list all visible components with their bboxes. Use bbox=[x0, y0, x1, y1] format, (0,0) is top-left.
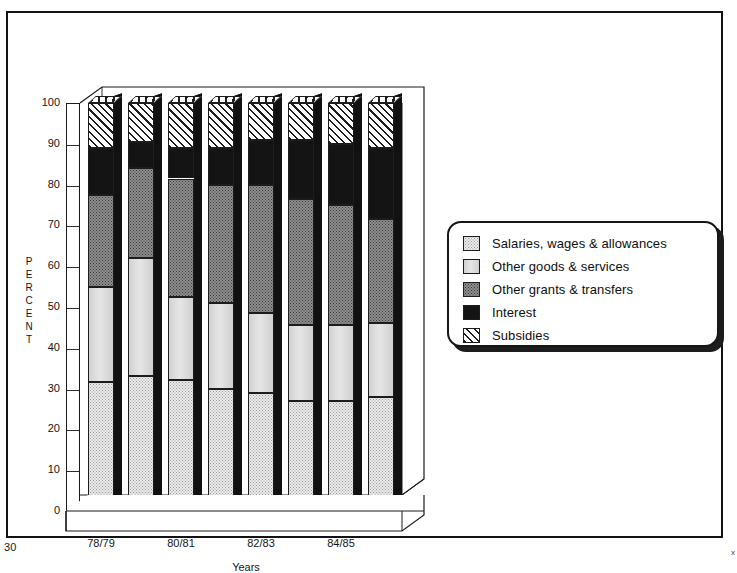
bar-side-face bbox=[274, 93, 282, 511]
y-tick-label: 100 bbox=[34, 96, 60, 108]
legend-item[interactable]: Other grants & transfers bbox=[463, 278, 717, 300]
y-axis-3d-wall bbox=[66, 103, 80, 511]
bar-segment bbox=[128, 103, 154, 142]
bar-segment bbox=[328, 325, 354, 400]
bar-79-80[interactable] bbox=[128, 103, 154, 511]
legend-item[interactable]: Subsidies bbox=[463, 324, 717, 346]
bar-segment bbox=[248, 313, 274, 393]
bar-segment bbox=[88, 103, 114, 148]
bar-83-84[interactable] bbox=[288, 103, 314, 511]
axis-gridline bbox=[67, 390, 79, 391]
x-axis-title: Years bbox=[186, 561, 306, 573]
y-tick-label: 40 bbox=[34, 341, 60, 353]
legend-label: Other goods & services bbox=[492, 259, 629, 274]
page-number: 30 bbox=[4, 541, 17, 553]
y-tick-label: 60 bbox=[34, 259, 60, 271]
y-tick-label: 20 bbox=[34, 422, 60, 434]
bar-segment bbox=[128, 142, 154, 169]
bar-segment bbox=[168, 148, 194, 179]
chart-floor bbox=[66, 511, 426, 512]
axis-gridline bbox=[67, 430, 79, 431]
legend-item[interactable]: Other goods & services bbox=[463, 255, 717, 277]
y-tick-label: 80 bbox=[34, 178, 60, 190]
x-tick-label: 84/85 bbox=[318, 537, 364, 549]
bar-82-83[interactable] bbox=[248, 103, 274, 511]
bar-segment bbox=[328, 103, 354, 144]
plot-area: 78/7980/8182/8384/85 Years bbox=[66, 87, 426, 517]
legend-label: Interest bbox=[492, 305, 536, 320]
legend-swatch bbox=[463, 259, 480, 274]
bar-side-face bbox=[234, 93, 242, 511]
bar-81-82[interactable] bbox=[208, 103, 234, 511]
bar-segment bbox=[248, 140, 274, 185]
bar-segment bbox=[328, 401, 354, 511]
y-tick-label: 90 bbox=[34, 137, 60, 149]
bar-side-face bbox=[194, 93, 202, 511]
axis-gridline bbox=[67, 145, 79, 146]
y-tick-label: 0 bbox=[34, 504, 60, 516]
bar-segment bbox=[328, 205, 354, 325]
bar-segment bbox=[368, 219, 394, 323]
y-tick-label: 30 bbox=[34, 382, 60, 394]
bar-84-85[interactable] bbox=[328, 103, 354, 511]
bar-segment bbox=[168, 380, 194, 511]
bar-segment bbox=[128, 168, 154, 258]
bar-segment bbox=[248, 185, 274, 314]
bar-segment bbox=[288, 199, 314, 325]
bar-segment bbox=[168, 297, 194, 381]
bar-segment bbox=[368, 323, 394, 396]
axis-gridline bbox=[67, 308, 79, 309]
legend-swatch bbox=[463, 236, 480, 251]
chart-legend: Salaries, wages & allowancesOther goods … bbox=[447, 221, 719, 347]
y-axis-title-letter: R bbox=[22, 281, 36, 294]
bar-segment bbox=[288, 140, 314, 199]
bar-segment bbox=[208, 148, 234, 185]
y-axis-title-letter: N bbox=[22, 320, 36, 333]
stacked-bar-chart: PERCENT 0102030405060708090100 78/7980/8… bbox=[18, 75, 438, 545]
bar-segment bbox=[328, 144, 354, 205]
bar-78-79[interactable] bbox=[88, 103, 114, 511]
y-tick-label: 70 bbox=[34, 218, 60, 230]
bar-segment bbox=[88, 382, 114, 511]
bar-segment bbox=[208, 303, 234, 389]
bar-segment bbox=[368, 397, 394, 511]
legend-swatch bbox=[463, 282, 480, 297]
bar-85-86[interactable] bbox=[368, 103, 394, 511]
bar-segment bbox=[208, 185, 234, 303]
bar-segment bbox=[248, 393, 274, 511]
bar-80-81[interactable] bbox=[168, 103, 194, 511]
y-tick-label: 10 bbox=[34, 463, 60, 475]
bar-segment bbox=[168, 179, 194, 297]
axis-gridline bbox=[67, 349, 79, 350]
y-tick-label: 50 bbox=[34, 300, 60, 312]
bars-group bbox=[88, 103, 408, 511]
legend-label: Subsidies bbox=[492, 328, 549, 343]
legend-label: Salaries, wages & allowances bbox=[492, 236, 667, 251]
bar-segment bbox=[288, 103, 314, 140]
legend-item[interactable]: Salaries, wages & allowances bbox=[463, 232, 717, 254]
axis-gridline bbox=[67, 267, 79, 268]
axis-gridline bbox=[67, 186, 79, 187]
bar-segment bbox=[208, 103, 234, 148]
bar-side-face bbox=[354, 93, 362, 511]
legend-swatch bbox=[463, 305, 480, 320]
bar-side-face bbox=[114, 93, 122, 511]
x-tick-label: 82/83 bbox=[238, 537, 284, 549]
x-tick-label: 78/79 bbox=[78, 537, 124, 549]
legend-swatch bbox=[463, 328, 480, 343]
x-tick-label: 80/81 bbox=[158, 537, 204, 549]
bar-segment bbox=[368, 103, 394, 148]
corner-mark: x bbox=[731, 548, 735, 557]
legend-item[interactable]: Interest bbox=[463, 301, 717, 323]
bar-segment bbox=[88, 148, 114, 195]
legend-label: Other grants & transfers bbox=[492, 282, 633, 297]
bar-segment bbox=[248, 103, 274, 140]
bar-segment bbox=[288, 325, 314, 400]
bar-side-face bbox=[314, 93, 322, 511]
bar-segment bbox=[168, 103, 194, 148]
bar-side-face bbox=[154, 93, 162, 511]
bar-side-face bbox=[394, 93, 402, 511]
axis-gridline bbox=[67, 226, 79, 227]
bar-segment bbox=[368, 148, 394, 219]
axis-gridline bbox=[67, 471, 79, 472]
